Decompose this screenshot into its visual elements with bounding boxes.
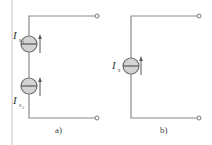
caption-a: a): [55, 125, 62, 135]
terminal-top-a: [95, 14, 99, 18]
terminal-bottom-a: [95, 116, 99, 120]
panel-a: I s 1 I s 2 a): [12, 14, 99, 135]
svg-text:2: 2: [22, 105, 25, 110]
top-wire-a: [29, 16, 96, 36]
source-label-2: I: [12, 94, 18, 106]
svg-text:1: 1: [22, 40, 24, 45]
terminal-bottom-b: [197, 116, 201, 120]
bottom-wire-b: [131, 74, 198, 118]
circuit-diagram: I s 1 I s 2 a) I s b): [0, 0, 212, 145]
source-label-1: I: [12, 29, 18, 41]
caption-b: b): [160, 125, 168, 135]
bottom-wire-a: [29, 94, 96, 118]
source-label-equivalent: I: [111, 59, 117, 71]
current-source-equivalent: [123, 56, 143, 75]
current-source-2: [21, 77, 42, 96]
top-wire-b: [131, 16, 198, 58]
svg-text:s: s: [118, 67, 121, 73]
terminal-top-b: [197, 14, 201, 18]
panel-b: I s b): [111, 14, 201, 135]
